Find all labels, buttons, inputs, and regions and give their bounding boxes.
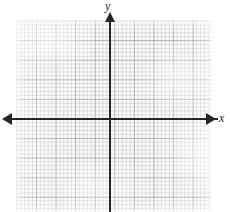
x-axis-left-arrow-icon (2, 113, 12, 125)
graph-figure: y x (0, 0, 230, 212)
graph-paper-grid (16, 20, 212, 212)
y-axis-up-arrow-icon (105, 12, 115, 22)
x-axis-line (10, 118, 218, 120)
y-axis-line (109, 14, 111, 212)
x-axis-right-arrow-icon (206, 113, 216, 125)
x-axis-label: x (219, 112, 224, 124)
y-axis-label: y (105, 0, 110, 12)
